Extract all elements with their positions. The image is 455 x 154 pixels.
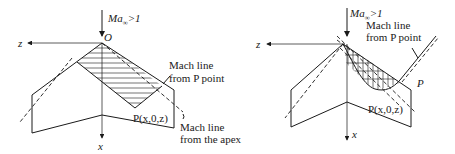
z-axis-label: z [17,37,23,49]
mach-line-from-p-dashed [402,38,438,82]
mach-line-from-p [77,62,162,108]
left-figure: Ma∞>1 O z x P [17,10,242,152]
apex-tick [337,40,350,50]
point-p-marker-label: P [416,77,424,89]
mach-line-from-apex-left [20,58,72,122]
x-axis-label: x [97,140,103,152]
callout-apex-line2: from the apex [180,133,242,145]
callout-leader-p [412,48,418,58]
x-axis-label: x [351,128,357,140]
right-figure: Ma∞>1 z x [255,7,438,140]
callout-p-line1: Mach line [169,59,213,71]
callout-leader-apex [183,114,184,119]
callout-p-line2: from P point [366,31,421,43]
dependence-region-hatch [60,48,180,103]
diagram-canvas: Ma∞>1 O z x P [0,0,455,154]
origin-label: O [104,31,112,43]
z-axis-label: z [255,38,261,50]
mach-line-from-apex-left [285,44,343,118]
mach-label: Ma∞>1 [107,12,141,27]
point-p-label: P(x,0,z) [368,103,403,116]
mach-line-from-apex-right [337,36,415,112]
point-p-label: P(x,0,z) [133,112,168,125]
callout-apex-line1: Mach line [180,121,224,133]
callout-p-line1: Mach line [366,19,410,31]
callout-p-line2: from P point [169,72,224,84]
